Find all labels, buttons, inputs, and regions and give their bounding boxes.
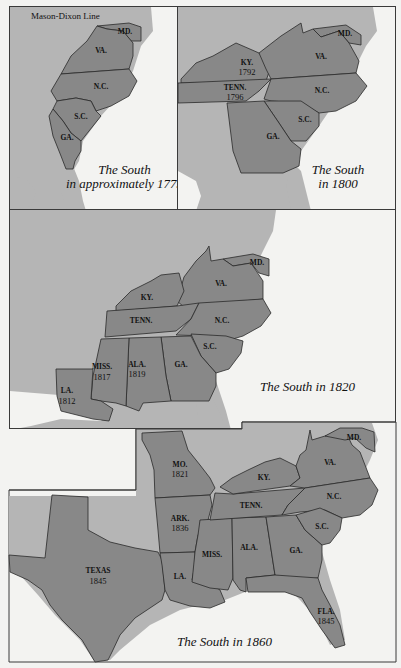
state-miss-1860 — [192, 518, 233, 590]
mason-dixon-line-label: Mason-Dixon Line — [31, 11, 100, 21]
caption-1775: The South in approximately 1775 — [62, 163, 178, 191]
state-mo-1860 — [142, 431, 215, 498]
caption-1820: The South in 1820 — [260, 380, 355, 394]
label-md: MD. — [338, 29, 352, 38]
label-ala: ALA. — [128, 360, 146, 369]
label-md: MD. — [347, 433, 361, 442]
label-tenn-year: 1796 — [227, 92, 244, 102]
label-ark: ARK. — [171, 514, 190, 523]
state-tenn-1860 — [210, 488, 305, 520]
label-va: VA. — [315, 52, 327, 61]
label-ga: GA. — [174, 360, 187, 369]
label-ga: GA. — [289, 546, 302, 555]
label-mo-year: 1821 — [172, 469, 189, 479]
label-ky: KY. — [258, 473, 271, 482]
label-ky: KY. — [141, 293, 154, 302]
label-miss-year: 1817 — [94, 372, 111, 382]
label-sc: S.C. — [315, 522, 328, 531]
label-la: LA. — [174, 572, 186, 581]
caption-1800: The South in 1800 — [288, 163, 388, 191]
state-texas-1860 — [9, 495, 165, 662]
label-la-year: 1812 — [59, 396, 76, 406]
label-va: VA. — [95, 46, 107, 55]
label-la: LA. — [61, 386, 73, 395]
caption-1860: The South in 1860 — [177, 635, 272, 649]
label-miss: MISS. — [92, 362, 112, 371]
state-ga-1860 — [266, 515, 322, 580]
label-ala: ALA. — [240, 543, 258, 552]
label-nc: N.C. — [94, 82, 109, 91]
label-texas-year: 1845 — [90, 576, 107, 586]
state-va-1860 — [290, 430, 370, 488]
label-ky: KY. — [241, 58, 254, 67]
label-ga: GA. — [60, 133, 73, 142]
label-texas: TEXAS — [85, 566, 110, 575]
label-ga: GA. — [266, 132, 279, 141]
label-tenn: TENN. — [224, 83, 247, 92]
label-ark-year: 1836 — [172, 523, 189, 533]
label-sc: S.C. — [298, 115, 311, 124]
map-1820-graphic: MD. VA. KY. TENN. N.C. S.C. GA. ALA. 181… — [10, 210, 396, 429]
state-ky-1860 — [220, 458, 300, 494]
label-nc: N.C. — [215, 316, 230, 325]
label-miss: MISS. — [202, 550, 222, 559]
label-va: VA. — [324, 458, 336, 467]
map-panel-1800: MD. VA. KY. 1792 TENN. 1796 N.C. S.C. GA… — [177, 6, 396, 210]
state-nc-1860 — [282, 478, 378, 518]
label-sc: S.C. — [203, 342, 216, 351]
label-sc: S.C. — [74, 112, 87, 121]
label-tenn: TENN. — [240, 501, 263, 510]
label-va: VA. — [215, 279, 227, 288]
state-sc-1860 — [296, 508, 342, 545]
state-fla-1860 — [246, 575, 345, 648]
label-md: MD. — [118, 27, 132, 36]
label-ky-year: 1792 — [239, 67, 256, 77]
label-ala-year: 1819 — [129, 369, 146, 379]
label-nc: N.C. — [327, 492, 342, 501]
label-tenn: TENN. — [130, 316, 153, 325]
state-ark-1860 — [155, 495, 212, 553]
map-panel-1775: MD. VA. N.C. S.C. GA. Mason-Dixon Line T… — [9, 6, 178, 210]
label-fla-year: 1845 — [318, 616, 335, 626]
state-la-1860 — [160, 552, 225, 608]
map-panel-1820: MD. VA. KY. TENN. N.C. S.C. GA. ALA. 181… — [9, 209, 396, 429]
state-ala-1860 — [232, 517, 275, 592]
label-md: MD. — [250, 258, 264, 267]
label-mo: MO. — [173, 460, 188, 469]
state-md-1860 — [325, 428, 375, 452]
label-nc: N.C. — [315, 86, 330, 95]
label-fla: FLA. — [318, 607, 335, 616]
